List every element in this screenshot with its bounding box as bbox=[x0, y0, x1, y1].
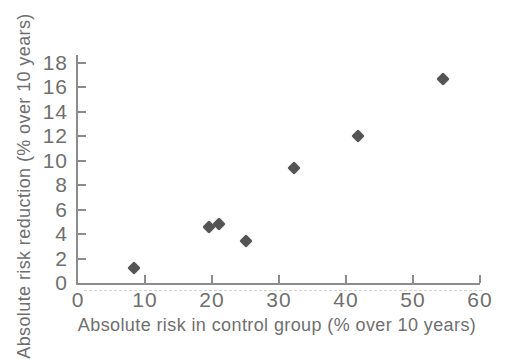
y-axis-tick bbox=[78, 233, 86, 235]
x-axis-tick-label: 50 bbox=[385, 288, 441, 312]
y-axis-tick-label: 14 bbox=[16, 100, 68, 124]
data-point-marker bbox=[287, 162, 300, 175]
y-axis-tick bbox=[78, 184, 86, 186]
x-axis-tick-label: 60 bbox=[452, 288, 508, 312]
x-axis-tick-label: 30 bbox=[251, 288, 307, 312]
data-point-marker bbox=[127, 262, 140, 275]
x-axis-tick bbox=[278, 275, 280, 283]
x-axis-tick bbox=[144, 275, 146, 283]
x-axis-tick bbox=[479, 275, 481, 283]
x-axis-tick bbox=[412, 275, 414, 283]
y-axis-tick-label: 8 bbox=[16, 173, 68, 197]
y-axis-tick bbox=[78, 209, 86, 211]
y-axis-tick bbox=[78, 111, 86, 113]
y-axis-tick bbox=[78, 62, 86, 64]
y-axis-tick-label: 18 bbox=[16, 51, 68, 75]
y-axis-tick-label: 16 bbox=[16, 75, 68, 99]
y-axis-tick-label: 10 bbox=[16, 149, 68, 173]
scatter-figure: Absolute risk reduction (% over 10 years… bbox=[0, 0, 509, 359]
x-axis-tick-label: 0 bbox=[50, 288, 106, 312]
plot-area: 0246810121416180102030405060 bbox=[76, 55, 480, 285]
x-axis-tick-label: 10 bbox=[117, 288, 173, 312]
data-point-marker bbox=[240, 235, 253, 248]
y-axis-tick-label: 2 bbox=[16, 247, 68, 271]
y-axis-tick bbox=[78, 86, 86, 88]
data-point-marker bbox=[352, 130, 365, 143]
y-axis-tick bbox=[78, 135, 86, 137]
x-axis-tick-label: 40 bbox=[318, 288, 374, 312]
x-axis-title: Absolute risk in control group (% over 1… bbox=[76, 315, 478, 336]
y-axis-tick bbox=[78, 160, 86, 162]
x-axis-tick-label: 20 bbox=[184, 288, 240, 312]
y-axis-tick-label: 6 bbox=[16, 198, 68, 222]
y-axis-tick-label: 4 bbox=[16, 222, 68, 246]
y-axis-tick bbox=[78, 258, 86, 260]
x-axis-tick bbox=[211, 275, 213, 283]
data-point-marker bbox=[212, 218, 225, 231]
data-point-marker bbox=[437, 73, 450, 86]
y-axis-tick-label: 12 bbox=[16, 124, 68, 148]
x-axis-tick bbox=[345, 275, 347, 283]
